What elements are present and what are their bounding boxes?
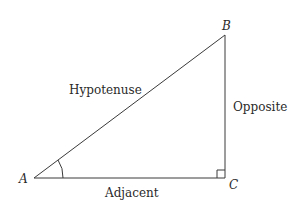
angle-arc-at-a (58, 160, 63, 178)
hypotenuse-line (34, 35, 225, 178)
opposite-label: Opposite (233, 100, 287, 114)
right-triangle-diagram: B C A Hypotenuse Opposite Adjacent (0, 0, 298, 209)
hypotenuse-label: Hypotenuse (69, 83, 142, 97)
vertex-label-c: C (229, 178, 238, 192)
adjacent-label: Adjacent (104, 186, 159, 200)
vertex-label-b: B (221, 19, 231, 33)
right-angle-marker (217, 170, 225, 178)
vertex-label-a: A (18, 172, 28, 186)
